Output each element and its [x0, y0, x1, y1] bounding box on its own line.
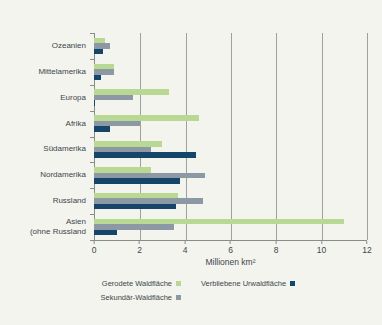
chart-row: Asien (ohne Russland — [0, 214, 367, 240]
bar-group — [94, 38, 367, 55]
bar — [94, 126, 110, 132]
legend-swatch — [176, 281, 181, 286]
bar-group — [94, 193, 367, 210]
bar — [94, 204, 176, 210]
x-tick: 8 — [274, 241, 279, 255]
x-tick: 10 — [317, 241, 326, 255]
y-tick — [90, 59, 94, 60]
chart-panel: OzeanienMittelamerikaEuropaAfrikaSüdamer… — [0, 0, 382, 325]
category-label: Ozeanien — [0, 41, 94, 51]
legend-item: Verbliebene Urwaldfläche — [201, 279, 382, 288]
x-tick-label: 12 — [362, 245, 371, 255]
y-tick — [90, 137, 94, 138]
bar-group — [94, 141, 367, 158]
legend-label: Gerodete Waldfläche — [102, 279, 172, 288]
y-tick — [90, 162, 94, 163]
y-axis-ticks — [90, 33, 94, 240]
x-tick-label: 4 — [183, 245, 188, 255]
category-label: Südamerika — [0, 144, 94, 154]
category-label: Nordamerika — [0, 170, 94, 180]
x-tick: 2 — [137, 241, 142, 255]
y-tick — [90, 85, 94, 86]
y-tick — [90, 33, 94, 34]
bar — [94, 230, 117, 236]
y-tick — [90, 188, 94, 189]
bar-group — [94, 64, 367, 81]
x-tick-mark — [230, 241, 231, 244]
bar-rows: OzeanienMittelamerikaEuropaAfrikaSüdamer… — [0, 33, 367, 240]
x-tick-mark — [93, 241, 94, 244]
x-axis: 024681012 — [94, 240, 367, 256]
x-tick: 0 — [92, 241, 97, 255]
category-label: Europa — [0, 93, 94, 103]
bar — [94, 75, 101, 81]
x-tick-label: 6 — [228, 245, 233, 255]
legend-item: Sekundär-Waldfläche — [97, 293, 181, 302]
y-tick — [90, 240, 94, 241]
y-tick — [90, 214, 94, 215]
y-tick — [90, 111, 94, 112]
x-tick: 4 — [183, 241, 188, 255]
bar — [94, 95, 133, 101]
plot-area: OzeanienMittelamerikaEuropaAfrikaSüdamer… — [0, 33, 367, 240]
bar — [94, 100, 95, 106]
chart-row: Nordamerika — [0, 162, 367, 188]
chart-row: Russland — [0, 188, 367, 214]
legend-swatch — [176, 295, 181, 300]
category-label: Mittelamerika — [0, 67, 94, 77]
x-tick-label: 2 — [137, 245, 142, 255]
bar — [94, 152, 196, 158]
chart-row: Mittelamerika — [0, 59, 367, 85]
chart-row: Südamerika — [0, 137, 367, 163]
x-tick: 6 — [228, 241, 233, 255]
category-label: Russland — [0, 196, 94, 206]
x-tick-mark — [367, 241, 368, 244]
bar — [94, 49, 103, 55]
x-tick-mark — [321, 241, 322, 244]
x-tick-mark — [184, 241, 185, 244]
bar-group — [94, 89, 367, 106]
x-axis-title: Millionen km² — [94, 257, 367, 267]
chart-row: Afrika — [0, 111, 367, 137]
x-tick-label: 0 — [92, 245, 97, 255]
category-label: Afrika — [0, 119, 94, 129]
bar-group — [94, 115, 367, 132]
bar-group — [94, 219, 367, 236]
category-label: Asien (ohne Russland — [0, 217, 94, 237]
gridline — [367, 33, 368, 240]
chart-row: Europa — [0, 85, 367, 111]
bar — [94, 178, 180, 184]
bar-group — [94, 167, 367, 184]
legend-item: Gerodete Waldfläche — [97, 279, 181, 288]
x-tick: 12 — [362, 241, 371, 255]
legend-label: Verbliebene Urwaldfläche — [201, 279, 286, 288]
legend-swatch — [290, 281, 295, 286]
legend-label: Sekundär-Waldfläche — [101, 293, 172, 302]
x-tick-mark — [275, 241, 276, 244]
chart-row: Ozeanien — [0, 33, 367, 59]
x-tick-label: 8 — [274, 245, 279, 255]
legend: Gerodete WaldflächeVerbliebene Urwaldflä… — [97, 279, 382, 302]
x-tick-label: 10 — [317, 245, 326, 255]
x-tick-mark — [139, 241, 140, 244]
